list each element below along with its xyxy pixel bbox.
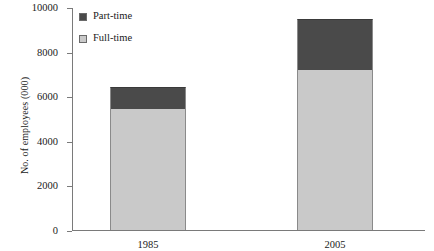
x-axis-line	[72, 230, 425, 231]
y-tick-label: 4000	[37, 137, 58, 148]
y-axis-title: No. of employees (000)	[16, 0, 32, 251]
y-axis-line	[72, 8, 73, 231]
y-tick: 8000	[67, 53, 72, 54]
y-tick: 10000	[67, 8, 72, 9]
chart-legend: Part-time Full-time	[79, 11, 132, 55]
bar-segment-part-time[interactable]	[297, 19, 373, 70]
y-tick-label: 6000	[37, 92, 58, 103]
y-tick-label: 0	[53, 226, 58, 237]
x-category-label: 1985	[138, 239, 159, 250]
stacked-bar-chart: No. of employees (000) 02000400060008000…	[0, 0, 434, 251]
legend-label-part-time: Part-time	[93, 11, 132, 22]
x-category-label: 2005	[325, 239, 346, 250]
bar-segment-full-time[interactable]	[297, 70, 373, 230]
y-tick: 6000	[67, 97, 72, 98]
y-tick-label: 2000	[37, 181, 58, 192]
legend-label-full-time: Full-time	[93, 33, 132, 44]
legend-item-full-time: Full-time	[79, 33, 132, 44]
bar-segment-part-time[interactable]	[110, 87, 186, 109]
legend-item-part-time: Part-time	[79, 11, 132, 22]
y-tick-label: 10000	[32, 3, 58, 14]
bar-group[interactable]: 2005	[297, 19, 373, 230]
y-tick: 0	[67, 231, 72, 232]
bar-segment-full-time[interactable]	[110, 109, 186, 230]
y-tick-label: 8000	[37, 47, 58, 58]
bar-group[interactable]: 1985	[110, 87, 186, 230]
legend-swatch-part-time	[79, 13, 87, 21]
legend-swatch-full-time	[79, 35, 87, 43]
y-tick: 4000	[67, 142, 72, 143]
y-tick: 2000	[67, 186, 72, 187]
